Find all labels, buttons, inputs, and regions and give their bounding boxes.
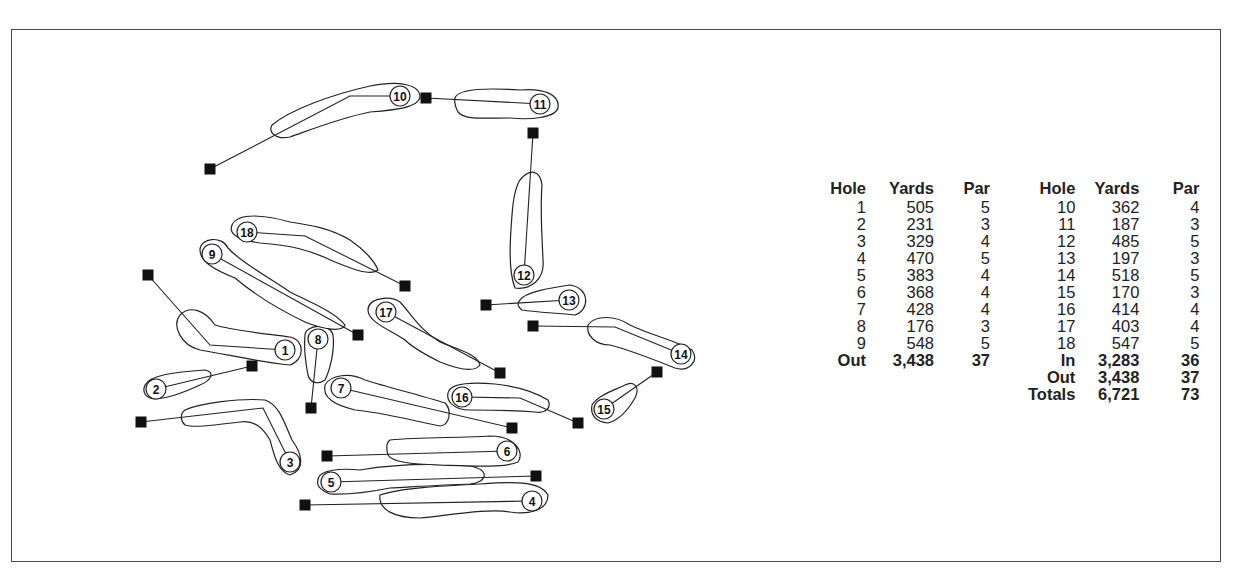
table-row: 185475 bbox=[1028, 335, 1199, 352]
hole-number-label: 15 bbox=[597, 403, 611, 417]
hole-number-label: 10 bbox=[393, 90, 407, 104]
cell-yards: 3,438 bbox=[1075, 369, 1139, 386]
cell-hole: 5 bbox=[822, 267, 866, 284]
header-par: Par bbox=[934, 178, 990, 199]
tee-marker-icon bbox=[247, 361, 258, 372]
tee-marker-icon bbox=[531, 471, 542, 482]
header-yards: Yards bbox=[866, 178, 934, 199]
cell-par: 4 bbox=[934, 233, 990, 250]
cell-par: 4 bbox=[1139, 318, 1199, 335]
cell-hole: 3 bbox=[822, 233, 866, 250]
cell-yards: 329 bbox=[866, 233, 934, 250]
tee-marker-icon bbox=[421, 93, 432, 104]
tee-marker-icon bbox=[573, 418, 584, 429]
hole-number-label: 11 bbox=[534, 98, 547, 112]
table-row: 95485 bbox=[822, 335, 990, 352]
cell-par: 3 bbox=[1139, 216, 1199, 233]
hole-number-label: 13 bbox=[562, 294, 576, 308]
hole-number-label: 4 bbox=[529, 495, 536, 509]
hole-number-label: 8 bbox=[315, 333, 322, 347]
back-nine-table: Hole Yards Par 1036241118731248551319731… bbox=[1028, 178, 1199, 403]
cell-par: 3 bbox=[934, 318, 990, 335]
cell-hole: Totals bbox=[1028, 386, 1075, 403]
cell-hole: 18 bbox=[1028, 335, 1075, 352]
tee-marker-icon bbox=[143, 270, 154, 281]
hole-number-label: 17 bbox=[379, 306, 393, 320]
header-row: Hole Yards Par bbox=[822, 178, 990, 199]
cell-yards: 414 bbox=[1075, 301, 1139, 318]
cell-par: 37 bbox=[1139, 369, 1199, 386]
tee-marker-icon bbox=[652, 367, 663, 378]
cell-yards: 6,721 bbox=[1075, 386, 1139, 403]
holes-layer: 123456789101112131415161718 bbox=[136, 83, 695, 518]
table-row: 74284 bbox=[822, 301, 990, 318]
cell-hole: Out bbox=[1028, 369, 1075, 386]
cell-yards: 368 bbox=[866, 284, 934, 301]
table-row: 22313 bbox=[822, 216, 990, 233]
cell-hole: In bbox=[1028, 352, 1075, 369]
tee-marker-icon bbox=[507, 423, 518, 434]
cell-hole: 14 bbox=[1028, 267, 1075, 284]
tee-marker-icon bbox=[528, 321, 539, 332]
cell-hole: 7 bbox=[822, 301, 866, 318]
table-row: 44705 bbox=[822, 250, 990, 267]
cell-hole: 1 bbox=[822, 199, 866, 216]
cell-par: 5 bbox=[1139, 267, 1199, 284]
total-row: Out3,43837 bbox=[822, 352, 990, 369]
cell-yards: 470 bbox=[866, 250, 934, 267]
cell-yards: 505 bbox=[866, 199, 934, 216]
table-row: 53834 bbox=[822, 267, 990, 284]
total-row: Totals6,72173 bbox=[1028, 386, 1199, 403]
cell-yards: 362 bbox=[1075, 199, 1139, 216]
table-row: 164144 bbox=[1028, 301, 1199, 318]
header-row: Hole Yards Par bbox=[1028, 178, 1199, 199]
cell-hole: 4 bbox=[822, 250, 866, 267]
cell-hole: 11 bbox=[1028, 216, 1075, 233]
hole-number-label: 16 bbox=[455, 391, 469, 405]
hole-number-label: 6 bbox=[504, 445, 511, 459]
header-hole: Hole bbox=[1028, 178, 1075, 199]
cell-par: 4 bbox=[934, 284, 990, 301]
cell-par: 4 bbox=[934, 301, 990, 318]
hole-13: 13 bbox=[481, 285, 586, 315]
table-row: 131973 bbox=[1028, 250, 1199, 267]
cell-yards: 176 bbox=[866, 318, 934, 335]
table-row: 124855 bbox=[1028, 233, 1199, 250]
front-nine-table: Hole Yards Par 1505522313332944470553834… bbox=[822, 178, 990, 369]
cell-par: 3 bbox=[1139, 250, 1199, 267]
hole-10: 10 bbox=[205, 83, 421, 174]
hole-3: 3 bbox=[136, 400, 301, 475]
hole-number-label: 7 bbox=[338, 382, 345, 396]
table-row: 33294 bbox=[822, 233, 990, 250]
cell-hole: 10 bbox=[1028, 199, 1075, 216]
table-row: 15055 bbox=[822, 199, 990, 216]
cell-yards: 197 bbox=[1075, 250, 1139, 267]
table-row: 151703 bbox=[1028, 284, 1199, 301]
hole-6: 6 bbox=[322, 436, 521, 466]
cell-yards: 428 bbox=[866, 301, 934, 318]
total-row: Out3,43837 bbox=[1028, 369, 1199, 386]
tee-marker-icon bbox=[495, 368, 506, 379]
header-par: Par bbox=[1139, 178, 1199, 199]
cell-par: 4 bbox=[934, 267, 990, 284]
table-row: 111873 bbox=[1028, 216, 1199, 233]
cell-yards: 383 bbox=[866, 267, 934, 284]
cell-yards: 231 bbox=[866, 216, 934, 233]
front-nine-rows: 1505522313332944470553834636847428481763… bbox=[822, 199, 990, 369]
back-nine-rows: 1036241118731248551319731451851517031641… bbox=[1028, 199, 1199, 403]
tee-marker-icon bbox=[205, 164, 216, 175]
cell-hole: 17 bbox=[1028, 318, 1075, 335]
cell-hole: 16 bbox=[1028, 301, 1075, 318]
table-row: 103624 bbox=[1028, 199, 1199, 216]
hole-number-label: 2 bbox=[153, 383, 160, 397]
cell-hole: 9 bbox=[822, 335, 866, 352]
cell-hole: 2 bbox=[822, 216, 866, 233]
hole-number-label: 12 bbox=[517, 269, 531, 283]
tee-marker-icon bbox=[353, 330, 364, 341]
cell-hole: 15 bbox=[1028, 284, 1075, 301]
header-yards: Yards bbox=[1075, 178, 1139, 199]
hole-number-label: 3 bbox=[287, 456, 294, 470]
hole-number-label: 5 bbox=[328, 476, 335, 490]
hole-number-label: 18 bbox=[240, 226, 254, 240]
hole-2: 2 bbox=[144, 361, 258, 400]
